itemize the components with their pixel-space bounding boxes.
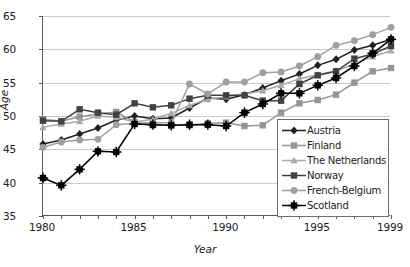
x-axis-title: Year (0, 243, 410, 255)
y-axis-title: Age (0, 90, 10, 110)
y-tick-label-35: 35 (3, 210, 16, 222)
legend-item-the-netherlands[interactable]: The Netherlands (281, 153, 384, 168)
legend-marker-icon (281, 139, 307, 152)
legend-item-norway[interactable]: Norway (281, 168, 384, 183)
y-tick-label-40: 40 (3, 177, 16, 189)
legend-marker-icon (281, 154, 307, 167)
series-norway (40, 43, 394, 125)
y-tick-label-65: 65 (3, 10, 16, 22)
legend-label: Norway (307, 170, 343, 181)
x-tick-label-1999: 1999 (377, 221, 403, 233)
chart-figure: Age Year 35404550556065 1980198519901995… (0, 0, 410, 267)
legend: AustriaFinlandThe NetherlandsNorwayFrenc… (277, 119, 389, 217)
legend-marker-icon (281, 169, 307, 182)
legend-label: Scotland (307, 200, 348, 211)
legend-item-french-belgium[interactable]: French-Belgium (281, 183, 384, 198)
legend-label: Austria (307, 125, 341, 136)
legend-item-austria[interactable]: Austria (281, 123, 384, 138)
x-tick-label-1980: 1980 (29, 221, 55, 233)
legend-item-finland[interactable]: Finland (281, 138, 384, 153)
legend-marker-icon (281, 124, 307, 137)
legend-item-scotland[interactable]: Scotland (281, 198, 384, 213)
y-tick-label-45: 45 (3, 143, 16, 155)
legend-label: Finland (307, 140, 341, 151)
x-tick-label-1995: 1995 (304, 221, 330, 233)
legend-marker-icon (281, 184, 307, 197)
x-tick-label-1990: 1990 (212, 221, 238, 233)
y-tick-label-50: 50 (3, 110, 16, 122)
y-tick-label-55: 55 (3, 77, 16, 89)
legend-marker-icon (281, 199, 307, 212)
legend-label: French-Belgium (307, 185, 381, 196)
y-tick-label-60: 60 (3, 43, 16, 55)
legend-label: The Netherlands (307, 155, 386, 166)
x-tick-label-1985: 1985 (121, 221, 147, 233)
x-tick-1999 (391, 215, 392, 219)
